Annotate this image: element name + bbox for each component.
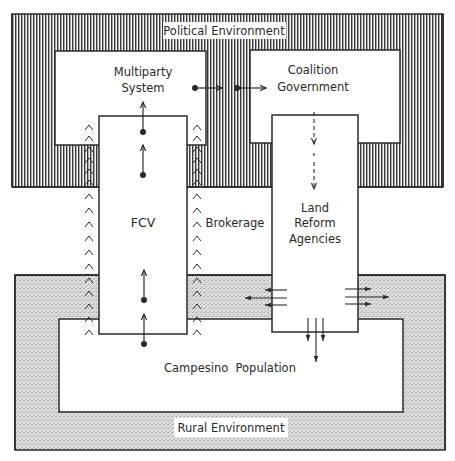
multiparty-label-line1: Multiparty [114, 65, 173, 79]
brokerage-label: Brokerage [206, 216, 265, 230]
fcv-label: FCV [131, 215, 156, 230]
lra-label-line1: Land [301, 201, 329, 215]
multiparty-label-line2: System [122, 81, 165, 95]
coalition-label-line2: Government [277, 80, 349, 94]
campesino-label: Campesino Population [164, 361, 296, 375]
coalition-label-line1: Coalition [288, 63, 339, 77]
rural-environment-label: Rural Environment [178, 421, 285, 435]
lra-label-line2: Reform [294, 216, 335, 230]
lra-label-line3: Agencies [289, 232, 341, 246]
diagram-canvas: Political Environment Rural Environment … [0, 0, 455, 461]
brokerage-zone [13, 188, 444, 274]
political-environment-label: Political Environment [163, 24, 285, 38]
